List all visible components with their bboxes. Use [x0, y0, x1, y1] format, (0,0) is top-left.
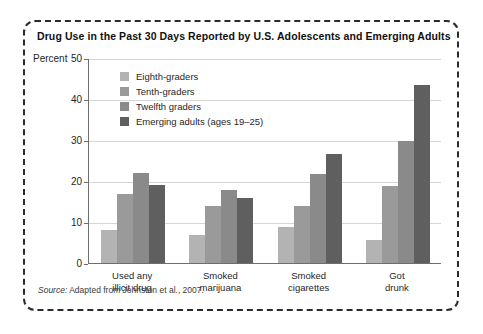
- source-label: Source:: [38, 285, 67, 295]
- figure-container: Drug Use in the Past 30 Days Reported by…: [23, 20, 459, 311]
- chart-legend: Eighth-gradersTenth-gradersTwelfth grade…: [120, 69, 263, 129]
- bar: [117, 194, 133, 263]
- legend-label: Tenth-graders: [136, 86, 195, 97]
- legend-item-4: Emerging adults (ages 19–25): [120, 114, 263, 128]
- legend-swatch-icon: [120, 102, 129, 111]
- bar-group: [366, 59, 430, 263]
- legend-swatch-icon: [120, 117, 129, 126]
- x-category-label-line: drunk: [342, 282, 452, 294]
- y-tick-label: 10: [58, 217, 82, 228]
- y-tick-label: 30: [58, 135, 82, 146]
- bar: [310, 174, 326, 263]
- legend-swatch-icon: [120, 72, 129, 81]
- x-category-label-line: Got: [342, 270, 452, 282]
- bar: [366, 240, 382, 263]
- y-tick-label: 0: [58, 258, 82, 269]
- bar: [382, 186, 398, 263]
- source-note: Source: Adapted from Johnston et al., 20…: [38, 285, 204, 295]
- bar: [133, 173, 149, 263]
- legend-item-2: Tenth-graders: [120, 84, 263, 98]
- bar: [101, 230, 117, 263]
- chart-title: Drug Use in the Past 30 Days Reported by…: [37, 30, 451, 42]
- legend-label: Emerging adults (ages 19–25): [136, 116, 263, 127]
- bar: [278, 227, 294, 263]
- legend-item-3: Twelfth graders: [120, 99, 263, 113]
- bar-group: [278, 59, 342, 263]
- bar: [398, 141, 414, 263]
- source-text: Adapted from Johnston et al., 2007.: [69, 285, 204, 295]
- bar: [414, 85, 430, 263]
- y-tick-label: 40: [58, 94, 82, 105]
- legend-label: Twelfth graders: [136, 101, 201, 112]
- bar: [189, 235, 205, 263]
- bar: [294, 206, 310, 263]
- y-tick-label: 20: [58, 176, 82, 187]
- y-tick-mark: [84, 264, 88, 265]
- bar: [205, 206, 221, 263]
- bar: [221, 190, 237, 263]
- y-tick-label: 50: [58, 53, 82, 64]
- bar: [149, 185, 165, 263]
- bar: [326, 154, 342, 263]
- legend-swatch-icon: [120, 87, 129, 96]
- legend-label: Eighth-graders: [136, 71, 198, 82]
- x-category-label: Gotdrunk: [342, 270, 452, 294]
- bar: [237, 198, 253, 263]
- legend-item-1: Eighth-graders: [120, 69, 263, 83]
